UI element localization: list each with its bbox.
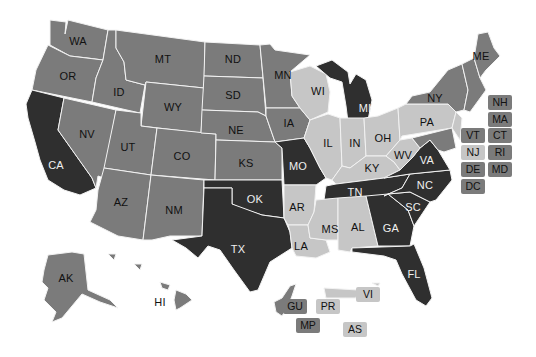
state-label-or: OR xyxy=(60,70,77,82)
state-label-wy: WY xyxy=(164,101,182,113)
state-label-ne: NE xyxy=(228,124,244,136)
state-label-mt: MT xyxy=(155,53,171,65)
state-label-hi: HI xyxy=(154,296,165,308)
state-label-oh: OH xyxy=(375,132,392,144)
state-label-ny: NY xyxy=(427,92,443,104)
state-box-vi[interactable]: VI xyxy=(356,287,380,302)
state-label-fl: FL xyxy=(407,268,420,280)
state-box-md[interactable]: MD xyxy=(488,162,512,177)
state-hi[interactable] xyxy=(108,254,192,310)
state-label-nv: NV xyxy=(79,128,95,140)
state-box-dc[interactable]: DC xyxy=(461,179,485,194)
state-box-pr[interactable]: PR xyxy=(316,299,340,314)
state-box-ri[interactable]: RI xyxy=(488,145,512,160)
state-label-ca: CA xyxy=(48,159,64,171)
state-label-nd: ND xyxy=(225,53,241,65)
state-label-wi: WI xyxy=(311,85,325,97)
state-label-mo: MO xyxy=(289,160,307,172)
state-label-co: CO xyxy=(174,150,191,162)
state-box-nh[interactable]: NH xyxy=(488,95,512,110)
territory-vi[interactable] xyxy=(372,283,380,286)
state-label-ak: AK xyxy=(58,272,73,284)
state-box-mp[interactable]: MP xyxy=(296,318,320,333)
state-label-va: VA xyxy=(420,154,434,166)
state-label-ut: UT xyxy=(120,141,135,153)
state-label-wa: WA xyxy=(69,35,87,47)
state-label-tx: TX xyxy=(231,243,245,255)
state-label-az: AZ xyxy=(114,196,128,208)
state-label-ms: MS xyxy=(322,223,339,235)
state-label-mi: MI xyxy=(359,102,372,114)
state-label-in: IN xyxy=(349,137,360,149)
state-label-pa: PA xyxy=(420,116,434,128)
state-box-ct[interactable]: CT xyxy=(488,128,512,143)
state-label-ks: KS xyxy=(238,157,253,169)
state-label-me: ME xyxy=(473,50,490,62)
state-ak[interactable] xyxy=(42,252,118,322)
state-label-il: IL xyxy=(323,137,333,149)
state-label-ar: AR xyxy=(289,201,305,213)
state-label-al: AL xyxy=(351,221,365,233)
state-label-nm: NM xyxy=(165,204,183,216)
state-box-nj[interactable]: NJ xyxy=(461,145,485,160)
state-label-nc: NC xyxy=(417,179,433,191)
state-label-ok: OK xyxy=(247,193,263,205)
state-box-de[interactable]: DE xyxy=(461,162,485,177)
state-label-ia: IA xyxy=(284,117,295,129)
state-label-sc: SC xyxy=(405,201,421,213)
territory-pr[interactable] xyxy=(324,288,358,298)
state-label-id: ID xyxy=(113,86,124,98)
state-label-sd: SD xyxy=(225,89,241,101)
state-label-mn: MN xyxy=(274,69,292,81)
state-label-wv: WV xyxy=(394,149,412,161)
state-box-ma[interactable]: MA xyxy=(488,112,512,127)
state-label-ga: GA xyxy=(383,222,399,234)
state-box-vt[interactable]: VT xyxy=(461,128,485,143)
state-box-gu[interactable]: GU xyxy=(283,299,307,314)
state-box-as[interactable]: AS xyxy=(343,322,367,337)
us-map xyxy=(0,0,536,357)
state-label-ky: KY xyxy=(364,162,379,174)
state-label-la: LA xyxy=(294,240,308,252)
state-label-tn: TN xyxy=(347,186,362,198)
